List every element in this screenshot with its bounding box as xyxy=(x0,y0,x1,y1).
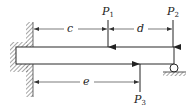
load-p3: P3 xyxy=(133,64,146,107)
dimension-label: e xyxy=(83,75,90,88)
load-subscript: 3 xyxy=(141,99,145,107)
dimension-e: e xyxy=(34,75,139,88)
dimension-label: c xyxy=(67,22,73,35)
dimension-label: d xyxy=(137,22,144,35)
load-p2: P2 xyxy=(166,5,179,47)
ground-hatch xyxy=(163,72,186,76)
dimension-c: c xyxy=(34,22,107,35)
beam-diagram: P1 P2 P3 c d e xyxy=(0,0,192,109)
svg-text:P3: P3 xyxy=(133,93,146,107)
roller-support xyxy=(163,64,186,76)
svg-text:P1: P1 xyxy=(101,5,114,19)
load-subscript: 2 xyxy=(174,11,178,19)
roller-icon xyxy=(170,64,178,72)
load-p1: P1 xyxy=(101,5,114,47)
dimension-d: d xyxy=(109,22,172,35)
svg-text:P2: P2 xyxy=(166,5,179,19)
beam xyxy=(16,47,174,64)
load-subscript: 1 xyxy=(109,11,113,19)
